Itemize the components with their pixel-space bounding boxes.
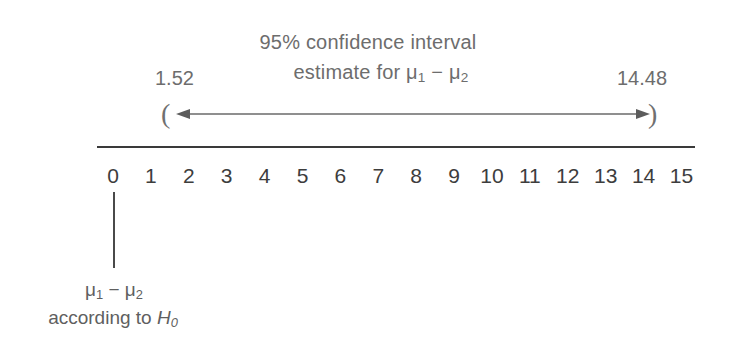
h-symbol: H xyxy=(157,307,171,328)
lower-bound-label: 1.52 xyxy=(155,66,194,90)
axis-tick-label: 10 xyxy=(480,163,503,189)
figure-title-line-1: 95% confidence interval xyxy=(0,27,736,57)
axis-tick-label: 1 xyxy=(145,163,157,189)
mu-subscript-1: 1 xyxy=(418,70,426,85)
interval-arrow xyxy=(176,103,650,125)
axis-tick-label: 13 xyxy=(594,163,617,189)
axis-tick-label: 7 xyxy=(372,163,384,189)
number-line-axis xyxy=(97,146,695,148)
null-caption-expression: μ1 − μ2 xyxy=(0,277,226,305)
axis-tick-label: 3 xyxy=(221,163,233,189)
mu-symbol-2: μ xyxy=(449,61,461,83)
axis-tick-label: 0 xyxy=(107,163,119,189)
mu-subscript-2: 2 xyxy=(461,70,469,85)
upper-bound-label: 14.48 xyxy=(617,66,667,90)
according-to-text: according to xyxy=(48,307,157,328)
axis-tick-label: 15 xyxy=(670,163,693,189)
null-hypothesis-marker-line xyxy=(113,192,115,268)
null-caption-according-to: according to H0 xyxy=(0,305,226,333)
mu-symbol-1: μ xyxy=(406,61,418,83)
axis-tick-label: 11 xyxy=(519,163,541,189)
axis-tick-label: 8 xyxy=(410,163,422,189)
minus-operator: − xyxy=(426,61,449,83)
caption-mu-symbol-1: μ xyxy=(85,279,96,300)
caption-mu-subscript-2: 2 xyxy=(136,287,143,302)
caption-mu-symbol-2: μ xyxy=(125,279,136,300)
h-subscript: 0 xyxy=(171,315,178,330)
axis-tick-label: 14 xyxy=(632,163,655,189)
caption-minus-operator: − xyxy=(103,279,125,300)
axis-tick-label: 4 xyxy=(259,163,271,189)
axis-tick-label: 5 xyxy=(297,163,309,189)
axis-tick-label: 12 xyxy=(556,163,579,189)
figure-title-line-2-prefix: estimate for xyxy=(293,61,406,83)
axis-tick-label: 2 xyxy=(183,163,195,189)
interval-open-paren: ( xyxy=(161,100,170,128)
axis-tick-label: 6 xyxy=(335,163,347,189)
axis-tick-labels: 0123456789101112131415 xyxy=(0,163,736,191)
confidence-interval-figure: 95% confidence interval estimate for μ1 … xyxy=(0,0,736,356)
caption-mu-subscript-1: 1 xyxy=(96,287,103,302)
axis-tick-label: 9 xyxy=(448,163,460,189)
null-hypothesis-caption: μ1 − μ2 according to H0 xyxy=(0,277,226,333)
